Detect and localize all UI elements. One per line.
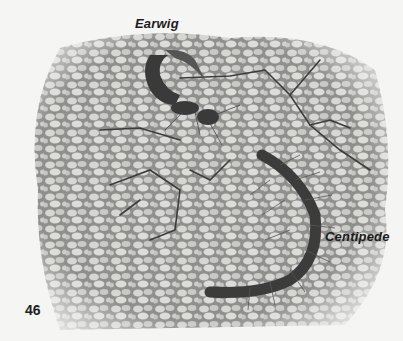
centipede-label: Centipede [325,229,390,244]
book-page: Earwig Centipede 46 [0,0,403,341]
page-number: 46 [25,302,41,318]
earwig-label: Earwig [135,16,179,31]
soil-illustration [0,0,403,341]
